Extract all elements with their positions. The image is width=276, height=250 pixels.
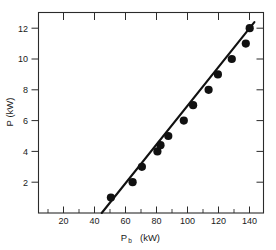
x-axis-title: P b (kW) [121,232,160,244]
data-point [107,194,115,202]
data-point [180,117,188,125]
y-axis-title-text: P (kW) [4,98,15,127]
x-tick-label: 60 [120,216,130,226]
data-point [189,101,197,109]
x-tick-label: 100 [180,216,195,226]
data-point [164,132,172,140]
data-point [242,40,250,48]
y-tick-label: 2 [23,178,28,188]
data-point [228,55,236,63]
data-point [205,86,213,94]
y-tick-label: 10 [18,54,28,64]
chart-page: 20 40 60 80 100 120 140 2 4 6 8 10 12 P … [0,0,276,250]
data-point [156,141,164,149]
y-axis-title: P (kW) [4,98,15,127]
x-tick-label: 40 [89,216,99,226]
x-axis-title-unit: (kW) [140,232,160,243]
x-tick-label: 80 [151,216,161,226]
data-point [214,70,222,78]
data-point [138,163,146,171]
x-tick-label: 120 [211,216,226,226]
y-tick-label: 6 [23,116,28,126]
y-tick-label: 8 [23,85,28,95]
scatter-plot: 20 40 60 80 100 120 140 2 4 6 8 10 12 P … [0,0,276,250]
x-axis-title-subscript: b [128,237,132,244]
x-tick-label: 20 [58,216,68,226]
y-tick-label: 12 [18,24,28,34]
y-tick-label: 4 [23,147,28,157]
data-point [129,178,137,186]
data-point [246,24,254,32]
x-tick-label: 140 [242,216,257,226]
x-axis-title-main: P [121,232,127,243]
